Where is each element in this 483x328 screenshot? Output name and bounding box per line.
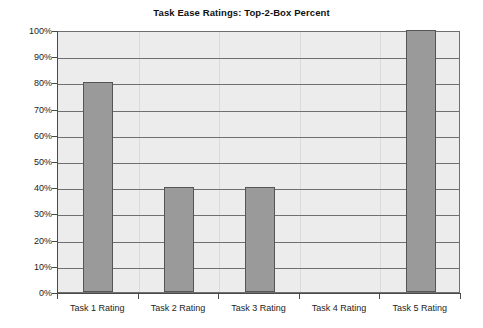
y-tick-label: 30%: [6, 209, 52, 219]
y-tick-mark: [52, 214, 57, 215]
y-axis-labels: 0%10%20%30%40%50%60%70%80%90%100%: [0, 0, 52, 328]
y-tick-mark: [52, 110, 57, 111]
x-tick-label: Task 5 Rating: [392, 303, 447, 313]
bar-3: [245, 187, 275, 292]
x-tick-label: Task 2 Rating: [151, 303, 206, 313]
gridline: [58, 58, 459, 59]
x-tick-mark: [218, 294, 219, 299]
category-separator: [300, 32, 301, 292]
y-tick-mark: [52, 241, 57, 242]
bar-chart: Task Ease Ratings: Top-2-Box Percent 0%1…: [0, 0, 483, 328]
bar-5: [406, 30, 436, 292]
y-tick-mark: [52, 267, 57, 268]
y-tick-label: 80%: [6, 78, 52, 88]
bar-2: [164, 187, 194, 292]
y-tick-label: 100%: [6, 26, 52, 36]
plot-area: [57, 31, 460, 293]
gridline: [58, 84, 459, 85]
y-tick-label: 70%: [6, 105, 52, 115]
gridline: [58, 111, 459, 112]
y-tick-mark: [52, 83, 57, 84]
category-separator: [219, 32, 220, 292]
x-tick-mark: [138, 294, 139, 299]
y-tick-label: 60%: [6, 131, 52, 141]
category-separator: [139, 32, 140, 292]
y-tick-mark: [52, 162, 57, 163]
y-tick-label: 10%: [6, 262, 52, 272]
x-tick-mark: [299, 294, 300, 299]
y-tick-mark: [52, 57, 57, 58]
x-axis-line: [57, 293, 461, 294]
x-tick-label: Task 4 Rating: [312, 303, 367, 313]
x-tick-mark: [57, 294, 58, 299]
x-tick-mark: [460, 294, 461, 299]
y-tick-label: 20%: [6, 236, 52, 246]
y-tick-label: 0%: [6, 288, 52, 298]
y-tick-mark: [52, 31, 57, 32]
y-tick-mark: [52, 188, 57, 189]
category-separator: [380, 32, 381, 292]
x-tick-label: Task 3 Rating: [231, 303, 286, 313]
gridline: [58, 137, 459, 138]
y-tick-label: 90%: [6, 52, 52, 62]
y-tick-mark: [52, 136, 57, 137]
y-axis-line: [57, 31, 58, 294]
x-tick-label: Task 1 Rating: [70, 303, 125, 313]
gridline: [58, 163, 459, 164]
x-tick-mark: [379, 294, 380, 299]
y-tick-label: 50%: [6, 157, 52, 167]
chart-title: Task Ease Ratings: Top-2-Box Percent: [0, 7, 483, 18]
y-tick-label: 40%: [6, 183, 52, 193]
bar-1: [83, 82, 113, 292]
